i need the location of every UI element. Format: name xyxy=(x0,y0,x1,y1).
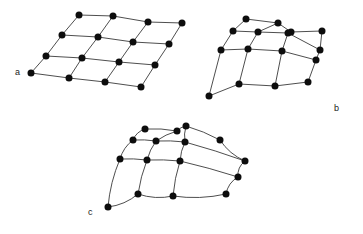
mesh-panel-a xyxy=(28,12,186,91)
mesh-edge xyxy=(46,35,62,56)
mesh-edge xyxy=(239,49,248,84)
mesh-edge xyxy=(145,129,177,131)
mesh-edge xyxy=(69,78,105,82)
panel-label-b: b xyxy=(334,103,339,113)
mesh-node xyxy=(95,34,102,41)
mesh-edge xyxy=(119,62,155,65)
mesh-node xyxy=(110,13,117,20)
mesh-node xyxy=(183,123,190,130)
mesh-edge xyxy=(173,194,226,198)
mesh-edge xyxy=(120,159,147,160)
panels-layer xyxy=(28,12,326,211)
mesh-node xyxy=(79,55,86,62)
mesh-edge xyxy=(108,159,120,207)
mesh-node xyxy=(153,138,160,145)
mesh-node xyxy=(317,47,324,54)
mesh-edge xyxy=(82,58,119,62)
mesh-node xyxy=(145,19,152,26)
mesh-edge xyxy=(46,56,82,58)
mesh-node xyxy=(272,83,279,90)
mesh-edge xyxy=(113,16,148,22)
mesh-node xyxy=(230,28,237,35)
mesh-node xyxy=(182,139,189,146)
mesh-node xyxy=(166,41,173,48)
mesh-node xyxy=(235,174,242,181)
mesh-node xyxy=(130,137,137,144)
mesh-edge xyxy=(119,42,133,62)
mesh-node xyxy=(174,128,181,135)
mesh-edge xyxy=(133,22,148,42)
mesh-node xyxy=(144,157,151,164)
mesh-node xyxy=(319,28,326,35)
mesh-node xyxy=(242,158,249,165)
mesh-node xyxy=(105,204,112,211)
mesh-edge xyxy=(133,42,169,44)
mesh-edges-a xyxy=(31,15,182,87)
panel-labels-layer: abc xyxy=(15,67,339,217)
mesh-edge xyxy=(98,16,113,37)
mesh-node xyxy=(28,70,35,77)
mesh-edge xyxy=(138,194,173,198)
mesh-node xyxy=(130,39,137,46)
mesh-panel-c xyxy=(105,123,249,211)
mesh-edge xyxy=(180,161,238,177)
mesh-edge xyxy=(209,50,221,96)
mesh-edge xyxy=(148,22,182,23)
mesh-edge xyxy=(248,49,282,51)
mesh-edge xyxy=(275,51,282,86)
mesh-nodes-a xyxy=(28,12,186,91)
mesh-edge xyxy=(221,49,248,50)
mesh-node xyxy=(66,75,73,82)
mesh-edge xyxy=(308,60,316,82)
mesh-node xyxy=(279,48,286,55)
mesh-edge xyxy=(173,161,180,196)
mesh-node xyxy=(245,46,252,53)
mesh-node xyxy=(170,193,177,200)
mesh-panel-b xyxy=(206,16,326,100)
mesh-edges-b xyxy=(209,19,322,96)
mesh-node xyxy=(177,158,184,165)
panel-label-a: a xyxy=(15,67,20,77)
mesh-edge xyxy=(209,84,239,96)
mesh-node xyxy=(116,59,123,66)
mesh-node xyxy=(142,126,149,133)
figure-root: abc xyxy=(0,0,363,234)
mesh-edge xyxy=(69,58,82,78)
mesh-edge xyxy=(155,44,169,65)
mesh-edge xyxy=(105,62,119,82)
mesh-node xyxy=(138,84,145,91)
mesh-edge xyxy=(258,32,288,33)
mesh-edge xyxy=(138,160,147,194)
mesh-node xyxy=(236,81,243,88)
mesh-node xyxy=(206,93,213,100)
mesh-node xyxy=(102,79,109,86)
mesh-node xyxy=(223,191,230,198)
mesh-node xyxy=(305,79,312,86)
mesh-edge xyxy=(291,31,322,32)
mesh-edge xyxy=(31,73,69,78)
mesh-node xyxy=(217,137,224,144)
mesh-node xyxy=(43,53,50,60)
mesh-edge xyxy=(105,82,141,87)
mesh-node xyxy=(255,29,262,36)
mesh-edge xyxy=(233,31,258,32)
mesh-node xyxy=(313,57,320,64)
grid-figure-svg: abc xyxy=(0,0,363,234)
mesh-node xyxy=(285,30,292,37)
panel-label-c: c xyxy=(88,207,93,217)
mesh-nodes-c xyxy=(105,123,249,211)
mesh-edge xyxy=(282,51,316,60)
mesh-edge xyxy=(108,194,138,207)
mesh-edge xyxy=(185,142,245,161)
mesh-node xyxy=(275,20,282,27)
mesh-edge xyxy=(82,37,98,58)
mesh-edge xyxy=(62,35,98,37)
mesh-edge xyxy=(156,141,185,142)
mesh-edge xyxy=(169,23,182,44)
mesh-edge xyxy=(141,65,155,87)
mesh-node xyxy=(179,20,186,27)
mesh-node xyxy=(76,12,83,19)
mesh-edge xyxy=(275,82,308,86)
mesh-edge xyxy=(220,140,245,161)
mesh-edge xyxy=(79,15,113,16)
